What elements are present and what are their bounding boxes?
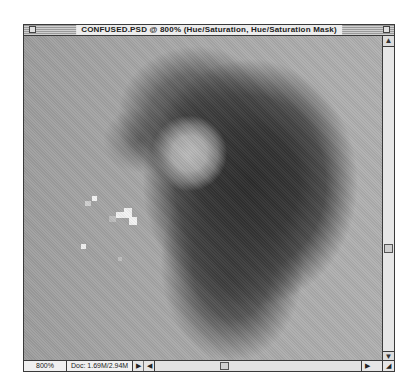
doc-size-info: Doc: 1.69M/2.94M	[67, 361, 133, 371]
resize-grow-icon[interactable]: ◢	[382, 361, 394, 371]
horizontal-scroll-thumb[interactable]	[220, 362, 229, 370]
zoom-level-field[interactable]: 800%	[24, 361, 67, 371]
status-bar: 800% Doc: 1.69M/2.94M ▶ ◀ ▶ ◢	[24, 360, 394, 371]
info-popup-arrow-icon[interactable]: ▶	[134, 361, 144, 371]
document-window: CONFUSED.PSD @ 800% (Hue/Saturation, Hue…	[23, 24, 395, 372]
zoom-box-icon[interactable]	[383, 26, 390, 33]
scroll-right-arrow-icon[interactable]: ▶	[361, 361, 372, 371]
scroll-left-arrow-icon[interactable]: ◀	[144, 361, 155, 371]
window-title: CONFUSED.PSD @ 800% (Hue/Saturation, Hue…	[76, 25, 342, 35]
dither-overlay	[24, 36, 383, 362]
vertical-scroll-thumb[interactable]	[384, 244, 393, 253]
horizontal-scrollbar[interactable]	[155, 361, 361, 371]
close-box-icon[interactable]	[29, 26, 36, 33]
image-canvas[interactable]	[24, 36, 383, 362]
title-bar[interactable]: CONFUSED.PSD @ 800% (Hue/Saturation, Hue…	[24, 25, 394, 36]
vertical-scrollbar[interactable]: ▲ ▼	[382, 36, 394, 362]
scroll-up-arrow-icon[interactable]: ▲	[383, 36, 394, 47]
